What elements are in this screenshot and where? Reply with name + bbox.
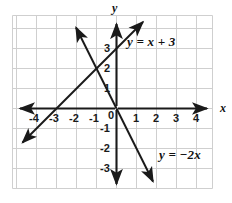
y-tick-label-2: 2 — [104, 63, 110, 74]
coordinate-graph-figure: y x 0 -4 -3 -2 -1 1 2 3 4 3 2 1 -1 -2 -3… — [0, 0, 232, 203]
x-tick-label-3: 3 — [173, 113, 179, 124]
x-tick-label-4: 4 — [193, 113, 199, 124]
origin-tick-label: 0 — [108, 110, 114, 121]
x-axis-name-label: x — [220, 102, 226, 114]
equation-label-line1: y = x + 3 — [127, 35, 175, 48]
y-tick-label--1: -1 — [100, 123, 110, 134]
x-tick-label--1: -1 — [89, 113, 99, 124]
y-tick-label-1: 1 — [104, 83, 110, 94]
graph-canvas — [0, 0, 232, 203]
x-tick-label-1: 1 — [133, 113, 139, 124]
x-tick-label--4: -4 — [29, 113, 39, 124]
equation-label-line2: y = −2x — [159, 148, 201, 161]
y-tick-label--3: -3 — [100, 163, 110, 174]
y-tick-label-3: 3 — [104, 43, 110, 54]
x-tick-label-2: 2 — [153, 113, 159, 124]
y-tick-label--2: -2 — [100, 143, 110, 154]
y-axis-name-label: y — [112, 2, 117, 14]
x-tick-label--3: -3 — [49, 113, 59, 124]
x-tick-label--2: -2 — [69, 113, 79, 124]
